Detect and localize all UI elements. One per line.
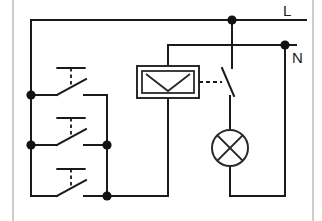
relay-contact-blade [222, 68, 234, 96]
junction-dots [26, 15, 289, 200]
page-border-guides [13, 0, 313, 221]
junction-left-rail-2 [26, 140, 35, 149]
circuit-schematic-canvas: L N [0, 0, 322, 221]
pushbutton-switch-2[interactable] [57, 118, 86, 145]
terminal-label-L: L [283, 2, 291, 19]
signal-lamp[interactable] [212, 130, 248, 166]
junction-L-tap [227, 15, 236, 24]
relay-contact[interactable] [222, 68, 234, 96]
wire-lamp-return [230, 45, 285, 196]
junction-bottom-bus [102, 191, 111, 200]
wire-sb1-output [84, 95, 107, 145]
junction-N-tap [280, 40, 289, 49]
junction-mid-bus [102, 140, 111, 149]
junction-left-rail-1 [26, 90, 35, 99]
relay-coil[interactable] [137, 66, 199, 98]
circuit-diagram: L N [0, 0, 322, 221]
terminal-label-N: N [292, 49, 303, 66]
pushbutton-switch-1[interactable] [57, 68, 86, 95]
pushbutton-switch-3[interactable] [57, 169, 86, 196]
